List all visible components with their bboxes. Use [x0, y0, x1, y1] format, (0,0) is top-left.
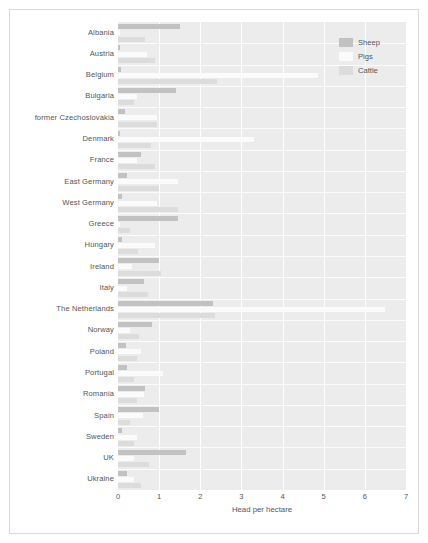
bar-sheep	[118, 471, 127, 476]
bar-pigs	[118, 349, 141, 354]
bar-sheep	[118, 365, 127, 370]
bar-group	[118, 86, 406, 107]
bar-cattle	[118, 100, 134, 105]
y-tick-label: Austria	[14, 49, 114, 58]
bar-group	[118, 320, 406, 341]
y-tick-label: The Netherlands	[14, 304, 114, 313]
bar-cattle	[118, 207, 178, 212]
bars-container	[118, 22, 406, 490]
bar-cattle	[118, 271, 161, 276]
bar-sheep	[118, 24, 180, 29]
bar-group	[118, 299, 406, 320]
legend-label: Cattle	[358, 65, 378, 76]
y-tick-label: Spain	[14, 411, 114, 420]
bar-sheep	[118, 343, 126, 348]
bar-pigs	[118, 73, 318, 78]
y-tick-label: Ireland	[14, 262, 114, 271]
bar-group	[118, 469, 406, 490]
y-tick-label: Belgium	[14, 70, 114, 79]
bar-sheep	[118, 152, 141, 157]
bar-sheep	[118, 386, 145, 391]
bar-cattle	[118, 249, 138, 254]
bar-cattle	[118, 420, 130, 425]
bar-pigs	[118, 456, 134, 461]
bar-pigs	[118, 307, 385, 312]
bar-sheep	[118, 173, 127, 178]
y-tick-label: Romania	[14, 389, 114, 398]
bar-sheep	[118, 279, 144, 284]
bar-group	[118, 107, 406, 128]
bar-group	[118, 256, 406, 277]
bar-cattle	[118, 313, 215, 318]
chart-legend: SheepPigsCattle	[339, 37, 401, 79]
bar-group	[118, 128, 406, 149]
bar-sheep	[118, 109, 125, 114]
y-tick-label: Albania	[14, 28, 114, 37]
x-tick-label: 0	[116, 492, 120, 501]
y-tick-label: East Germany	[14, 177, 114, 186]
legend-swatch-cattle	[339, 66, 353, 75]
legend-item[interactable]: Sheep	[339, 37, 401, 49]
bar-sheep	[118, 450, 186, 455]
bar-pigs	[118, 179, 178, 184]
x-tick-label: 2	[198, 492, 202, 501]
y-tick-label: Norway	[14, 325, 114, 334]
bar-sheep	[118, 45, 120, 50]
bar-pigs	[118, 222, 120, 227]
bar-cattle	[118, 79, 217, 84]
bar-pigs	[118, 52, 147, 57]
y-tick-label: France	[14, 155, 114, 164]
bar-group	[118, 277, 406, 298]
bar-sheep	[118, 258, 159, 263]
y-tick-label: Denmark	[14, 134, 114, 143]
bar-cattle	[118, 228, 130, 233]
bar-pigs	[118, 413, 143, 418]
y-tick-label: Ukraine	[14, 474, 114, 483]
bar-sheep	[118, 216, 178, 221]
bar-sheep	[118, 428, 122, 433]
bar-sheep	[118, 88, 176, 93]
y-axis-labels: AlbaniaAustriaBelgiumBulgariaformer Czec…	[14, 22, 114, 490]
x-tick-label: 5	[322, 492, 326, 501]
bar-group	[118, 213, 406, 234]
bar-group	[118, 384, 406, 405]
legend-swatch-pigs	[339, 52, 353, 61]
legend-item[interactable]: Cattle	[339, 65, 401, 77]
x-tick-label: 4	[280, 492, 284, 501]
x-axis-title: Head per hectare	[118, 505, 406, 514]
bar-group	[118, 235, 406, 256]
bar-group	[118, 171, 406, 192]
bar-cattle	[118, 334, 139, 339]
y-tick-label: Bulgaria	[14, 91, 114, 100]
bar-cattle	[118, 483, 141, 488]
legend-item[interactable]: Pigs	[339, 51, 401, 63]
bar-cattle	[118, 398, 137, 403]
bar-cattle	[118, 122, 157, 127]
bar-group	[118, 362, 406, 383]
y-tick-label: Italy	[14, 283, 114, 292]
bar-pigs	[118, 371, 163, 376]
bar-pigs	[118, 30, 120, 35]
bar-pigs	[118, 158, 137, 163]
y-tick-label: Poland	[14, 347, 114, 356]
bar-cattle	[118, 37, 145, 42]
y-tick-label: Sweden	[14, 432, 114, 441]
x-tick-label: 6	[363, 492, 367, 501]
bar-cattle	[118, 143, 151, 148]
bar-sheep	[118, 301, 213, 306]
bar-group	[118, 426, 406, 447]
bar-group	[118, 447, 406, 468]
bar-group	[118, 405, 406, 426]
bar-pigs	[118, 328, 130, 333]
x-tick-label: 7	[404, 492, 408, 501]
bar-pigs	[118, 201, 157, 206]
x-tick-label: 1	[157, 492, 161, 501]
legend-label: Pigs	[358, 51, 373, 62]
bar-group	[118, 341, 406, 362]
bar-sheep	[118, 67, 121, 72]
y-tick-label: Greece	[14, 219, 114, 228]
bar-group	[118, 192, 406, 213]
bar-sheep	[118, 194, 122, 199]
legend-label: Sheep	[358, 37, 380, 48]
bar-pigs	[118, 435, 137, 440]
